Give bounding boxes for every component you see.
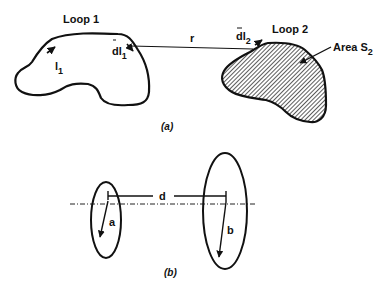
distance-label: d <box>159 190 166 202</box>
loop-1-label: Loop 1 <box>63 13 99 25</box>
radius-a-label: a <box>109 216 116 228</box>
element-dl2-arrow-icon <box>255 40 262 45</box>
area-label: Area S2 <box>333 41 373 57</box>
current-label: l1 <box>55 60 63 76</box>
radius-a-arrow-icon <box>100 201 108 237</box>
element-dl1-label: dl1 <box>112 45 127 61</box>
radius-b-label: b <box>227 224 234 236</box>
loop-2-label: Loop 2 <box>272 23 308 35</box>
radius-b-arrow-icon <box>219 202 226 257</box>
element-dl2-label: dl2 <box>236 30 251 46</box>
current-arrow-icon <box>47 47 55 53</box>
element-dl1-arrow-icon <box>127 44 133 51</box>
loop-small <box>91 182 121 258</box>
loop-2-area <box>222 43 326 122</box>
figure-b-caption: (b) <box>164 267 177 278</box>
separation-line <box>131 46 253 49</box>
figure-a: Loop 1 l1 dl1 r Loop 2 dl2 Area S2 (a) <box>15 13 373 132</box>
figure-a-caption: (a) <box>161 121 174 132</box>
loop-1-outline <box>15 33 149 105</box>
separation-label: r <box>190 32 195 44</box>
diagram-canvas: Loop 1 l1 dl1 r Loop 2 dl2 Area S2 (a) <box>0 0 386 294</box>
figure-b: d a b (b) <box>70 153 256 278</box>
